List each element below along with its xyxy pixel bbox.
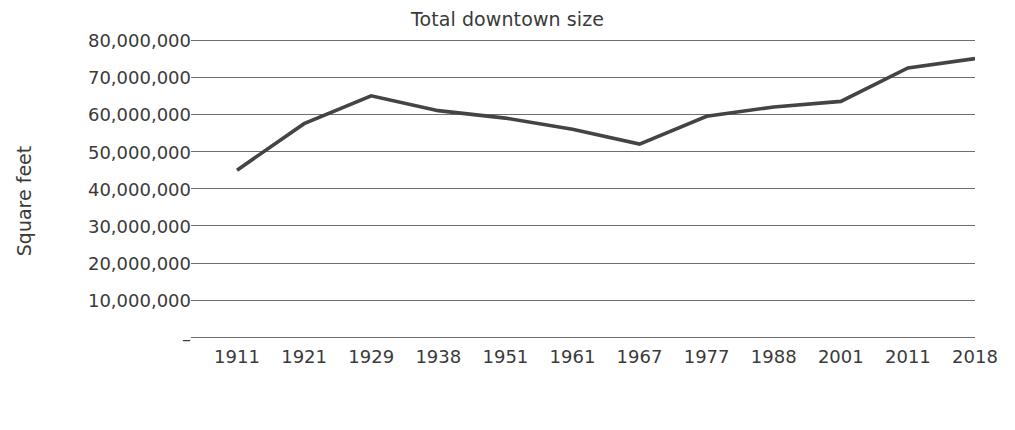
y-tick-label: – <box>182 327 191 348</box>
x-tick-label: 1961 <box>550 346 596 367</box>
y-tick-label: 50,000,000 <box>88 141 191 162</box>
x-axis-tick-labels: 1911192119291938195119611967197719882001… <box>199 346 975 372</box>
y-tick-label: 10,000,000 <box>88 290 191 311</box>
x-tick-label: 2011 <box>885 346 931 367</box>
x-tick-label: 1921 <box>281 346 327 367</box>
x-tick-label: 1988 <box>751 346 797 367</box>
chart-page: Total downtown size Square feet 80,000,0… <box>0 0 1015 430</box>
x-tick-label: 1929 <box>348 346 394 367</box>
y-tick-label: 80,000,000 <box>88 30 191 51</box>
series-line-total-downtown-size <box>199 40 975 340</box>
x-tick-label: 1967 <box>617 346 663 367</box>
y-tick-label: 40,000,000 <box>88 178 191 199</box>
x-tick-label: 1911 <box>214 346 260 367</box>
x-tick-label: 2001 <box>818 346 864 367</box>
y-tick-label: 20,000,000 <box>88 253 191 274</box>
x-tick-label: 1977 <box>684 346 730 367</box>
chart-title: Total downtown size <box>0 8 1015 30</box>
y-axis-tick-labels: 80,000,00070,000,00060,000,00050,000,000… <box>55 40 191 340</box>
y-tick-label: 60,000,000 <box>88 104 191 125</box>
plot-area <box>199 40 975 340</box>
x-tick-label: 1951 <box>482 346 528 367</box>
y-axis-ticks <box>191 40 201 340</box>
y-axis-title: Square feet <box>13 121 35 281</box>
y-tick-label: 70,000,000 <box>88 67 191 88</box>
x-tick-label: 1938 <box>415 346 461 367</box>
x-tick-label: 2018 <box>952 346 998 367</box>
y-tick-label: 30,000,000 <box>88 215 191 236</box>
